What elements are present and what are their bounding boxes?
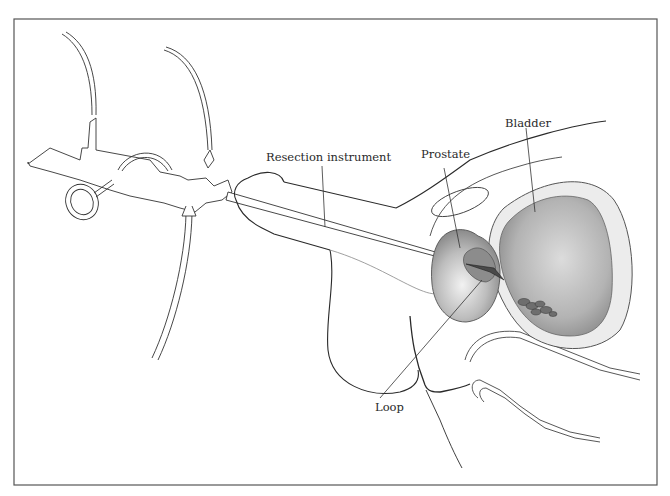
leader-resection-instrument <box>322 166 325 227</box>
rectum-lower <box>472 380 600 438</box>
turp-illustration <box>0 0 670 496</box>
leader-loop <box>380 280 482 398</box>
label-prostate: Prostate <box>421 149 470 161</box>
label-bladder: Bladder <box>505 118 551 130</box>
resectoscope <box>28 118 472 266</box>
label-resection-instrument: Resection instrument <box>266 152 391 164</box>
diagram-canvas: Resection instrument Prostate Bladder Lo… <box>0 0 670 496</box>
pubic-bone <box>428 181 492 222</box>
label-loop: Loop <box>375 402 404 414</box>
bladder <box>489 182 633 349</box>
